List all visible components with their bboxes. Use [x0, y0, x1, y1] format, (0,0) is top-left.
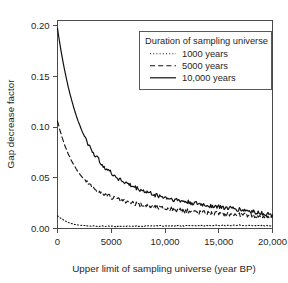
chart-legend: Duration of sampling universe 1000 years…: [139, 31, 271, 89]
legend-label-1: 5000 years: [182, 61, 228, 71]
x-axis-title: Upper limit of sampling universe (year B…: [72, 263, 256, 274]
y-tick-label: 0.15: [31, 71, 50, 82]
y-axis-title: Gap decrease factor: [5, 79, 16, 169]
x-tick-label: 0: [55, 236, 60, 247]
x-tick-label: 15,000: [204, 236, 233, 247]
y-tick-label: 0.05: [31, 172, 50, 183]
y-tick-label: 0.00: [31, 223, 50, 234]
legend-label-0: 1000 years: [182, 49, 228, 59]
x-tick-label: 20,000: [258, 236, 287, 247]
chart-figure: 0500010,00015,00020,000 0.000.050.100.15…: [0, 0, 288, 283]
x-tick-label: 10,000: [150, 236, 179, 247]
x-tick-label: 5000: [101, 236, 122, 247]
y-tick-label: 0.20: [31, 20, 50, 31]
y-tick-label: 0.10: [31, 121, 50, 132]
legend-label-2: 10,000 years: [182, 73, 236, 83]
legend-entries: 1000 years5000 years10,000 years: [150, 49, 236, 83]
chart-svg: 0500010,00015,00020,000 0.000.050.100.15…: [0, 0, 288, 283]
legend-title: Duration of sampling universe: [145, 36, 268, 46]
